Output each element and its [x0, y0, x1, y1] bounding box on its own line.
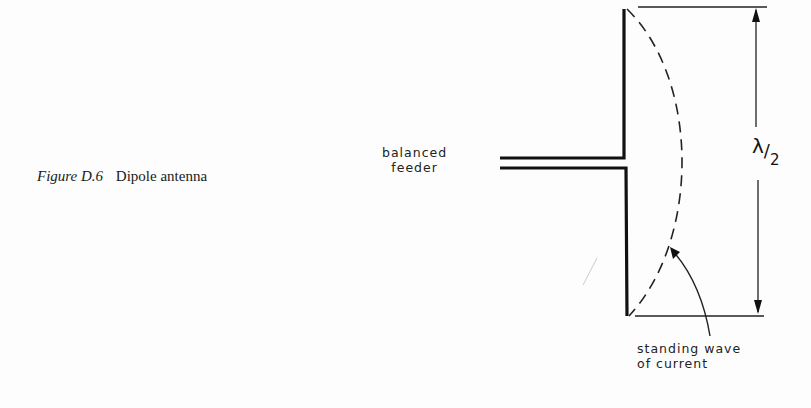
upper-dipole-arm: [500, 9, 624, 158]
dipole-antenna: [500, 9, 627, 316]
arrowhead-up-icon: [752, 8, 760, 22]
half-wavelength-label: λ/2: [752, 134, 779, 158]
fraction-slash: /: [764, 140, 770, 161]
fraction-denominator: 2: [770, 151, 780, 169]
wave-label-line1: standing wave: [637, 341, 741, 356]
standing-wave-label: standing wave of current: [637, 341, 741, 371]
pointer-line: [672, 250, 710, 336]
lower-dipole-arm: [500, 168, 627, 316]
wave-label-line2: of current: [637, 356, 741, 371]
lambda-symbol: λ: [752, 134, 764, 158]
scan-mark: [583, 258, 597, 285]
standing-wave-curve: [627, 9, 682, 316]
arrowhead-down-icon: [754, 300, 762, 314]
